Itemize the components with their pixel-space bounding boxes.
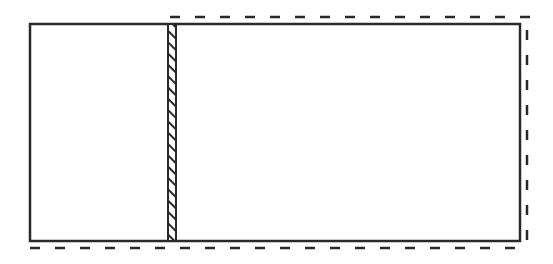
hatched-partition: [168, 24, 176, 241]
outer-rectangle: [30, 24, 520, 241]
diagram-canvas: [0, 0, 553, 264]
